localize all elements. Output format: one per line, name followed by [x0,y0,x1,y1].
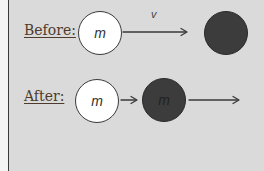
after-velocity-arrow-icon [189,97,239,104]
before-velocity-arrow-icon [123,29,187,36]
arrows-layer [0,0,264,171]
after-short-arrow-icon [121,97,137,104]
